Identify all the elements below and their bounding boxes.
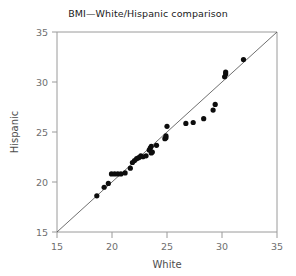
data-point	[211, 108, 216, 113]
y-axis-ticks	[52, 32, 57, 232]
data-point	[150, 149, 155, 154]
data-point	[128, 166, 133, 171]
data-point	[183, 121, 188, 126]
data-point	[143, 153, 148, 158]
y-axis-title: Hispanic	[9, 111, 20, 154]
x-tick-label-20: 20	[106, 241, 118, 252]
x-axis-title: White	[152, 259, 181, 270]
x-tick-label-15: 15	[51, 241, 63, 252]
data-point	[106, 181, 111, 186]
data-point	[201, 116, 206, 121]
data-point	[149, 144, 154, 149]
scatter-plot: 35 30 25 20 15 15 20 25 30 35 White Hisp…	[0, 0, 296, 276]
x-tick-label-25: 25	[161, 241, 173, 252]
data-point	[163, 133, 168, 138]
data-point	[154, 143, 159, 148]
y-tick-label-25: 25	[36, 127, 48, 138]
x-tick-label-35: 35	[271, 241, 283, 252]
data-point	[94, 193, 99, 198]
data-point	[102, 185, 107, 190]
data-point	[213, 102, 218, 107]
data-point	[191, 120, 196, 125]
y-tick-label-35: 35	[36, 27, 48, 38]
data-point	[164, 124, 169, 129]
y-tick-label-30: 30	[36, 77, 48, 88]
y-tick-label-20: 20	[36, 177, 48, 188]
data-point	[223, 69, 228, 74]
y-tick-label-15: 15	[36, 227, 48, 238]
data-point	[123, 170, 128, 175]
x-axis-ticks	[57, 232, 277, 238]
x-tick-label-30: 30	[216, 241, 228, 252]
chart-screenshot: BMI—White/Hispanic comparison 35 30 25 2…	[0, 0, 296, 276]
data-point	[241, 57, 246, 62]
